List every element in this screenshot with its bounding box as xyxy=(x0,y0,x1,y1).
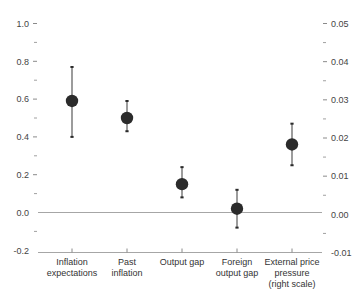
y-axis-label-left: 0.0 xyxy=(16,208,29,218)
x-axis-category-label: output gap xyxy=(216,268,259,278)
y-axis-label-left: 1.0 xyxy=(16,19,29,29)
y-axis-label-right: 0.03 xyxy=(331,95,349,105)
chart-container: 1.00.80.60.40.20.0-0.20.050.040.030.020.… xyxy=(0,0,361,305)
x-axis-category-label: inflation xyxy=(111,268,142,278)
data-point-marker xyxy=(66,95,78,107)
y-axis-label-right: 0.01 xyxy=(331,171,349,181)
y-axis-label-right: -0.01 xyxy=(331,248,352,258)
data-point-marker xyxy=(286,138,298,150)
y-axis-label-left: 0.4 xyxy=(16,132,29,142)
y-axis-label-left: 0.2 xyxy=(16,170,29,180)
y-axis-label-right: 0.02 xyxy=(331,133,349,143)
data-point-group xyxy=(231,190,243,228)
data-point-group xyxy=(286,124,298,166)
x-axis-category-label: pressure xyxy=(274,268,309,278)
y-axis-label-right: 0.00 xyxy=(331,210,349,220)
x-axis-category-label: Inflation xyxy=(56,257,88,267)
x-axis-category-label: (right scale) xyxy=(268,279,315,289)
y-axis-label-right: 0.05 xyxy=(331,19,349,29)
x-axis-category-label: Output gap xyxy=(160,257,205,267)
data-point-group xyxy=(121,101,133,131)
data-point-group xyxy=(176,167,188,197)
x-axis-category-label: Past xyxy=(118,257,137,267)
x-axis-category-label: Foreign xyxy=(222,257,253,267)
x-axis-category-label: expectations xyxy=(47,268,98,278)
data-point-marker xyxy=(176,178,188,190)
x-axis-category-label: External price xyxy=(264,257,319,267)
error-bar-chart: 1.00.80.60.40.20.0-0.20.050.040.030.020.… xyxy=(0,0,361,305)
y-axis-label-right: 0.04 xyxy=(331,57,349,67)
y-axis-label-left: -0.2 xyxy=(13,246,29,256)
data-point-marker xyxy=(231,203,243,215)
y-axis-label-left: 0.8 xyxy=(16,57,29,67)
data-point-group xyxy=(66,67,78,137)
y-axis-label-left: 0.6 xyxy=(16,94,29,104)
data-point-marker xyxy=(121,112,133,124)
